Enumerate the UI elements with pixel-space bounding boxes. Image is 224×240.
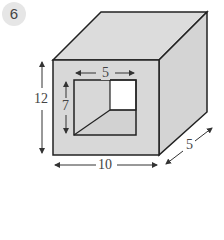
label-depth: 5: [185, 138, 194, 152]
dim-line-depth: [166, 151, 183, 164]
hole-back-opening: [110, 80, 136, 110]
dim-line-depth-upper: [195, 128, 212, 141]
label-hole-width: 5: [101, 66, 110, 80]
label-outer-height: 12: [33, 92, 49, 106]
label-outer-width: 10: [97, 158, 113, 172]
label-hole-height: 7: [61, 99, 70, 113]
